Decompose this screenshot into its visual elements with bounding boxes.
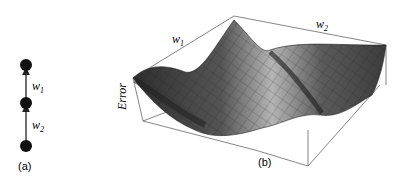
- caption-b: (b): [258, 156, 271, 168]
- axis-label-w2: w2: [316, 17, 328, 33]
- axis-label-error: Error: [115, 83, 129, 111]
- surface-mesh: [133, 20, 386, 136]
- panel-a-network: w1 w2 (a): [18, 59, 44, 172]
- label-w2: w2: [32, 118, 44, 134]
- label-w1: w1: [32, 79, 44, 95]
- axis-label-w1: w1: [172, 32, 184, 48]
- node-top: [20, 59, 32, 71]
- panel-b-surface: w1 w2 Error (b): [115, 16, 386, 168]
- figure: w1 w2 (a) w1 w2 Error (b): [0, 0, 401, 179]
- node-middle: [20, 97, 32, 109]
- node-bottom: [20, 140, 32, 152]
- caption-a: (a): [18, 160, 31, 172]
